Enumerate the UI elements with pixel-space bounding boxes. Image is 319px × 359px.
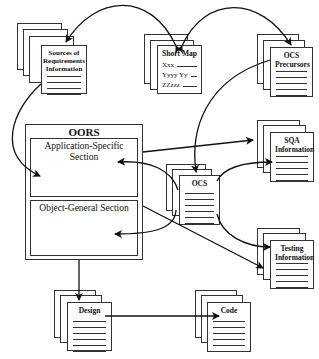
doc-title: Code [208,307,250,316]
map-row: Yyyy Yy [162,71,197,79]
text-lines [185,193,214,229]
map-row: Xxx [162,61,197,69]
oors-title: OORS [26,126,142,138]
text-lines [213,321,245,357]
doc-title: OCS [180,180,219,189]
doc-title: Testing Information [275,245,309,262]
doc-sqa-information: SQA Information [257,120,317,184]
sheet-front: Short Map Xxx Yyyy Yy ZZzzz [157,45,202,94]
map-row: ZZzzz [162,81,197,89]
doc-title: Design [68,307,111,316]
doc-sources-of-requirements: Sources of Requirements Information [17,23,89,95]
doc-short-map: Short Map Xxx Yyyy Yy ZZzzz [144,34,204,96]
sheet-front: OCS [179,175,220,225]
text-lines [73,321,106,357]
doc-testing-information: Testing Information [257,228,317,292]
diagram-canvas: Sources of Requirements Information Shor… [0,0,319,359]
sheet-front: Design [67,302,112,351]
sheet-front: Sources of Requirements Information [41,45,87,94]
doc-title: SQA Information [275,137,309,154]
section-object-general: Object-General Section [30,200,138,256]
sheet-front: SQA Information [270,132,314,182]
doc-title: Short Map [158,50,201,59]
doc-title: OCS Precursors [275,52,308,69]
oors-box: OORS Application-Specific Section Object… [25,124,143,260]
section-application-specific: Application-Specific Section [30,138,138,197]
arrow-appspecific-sqa [143,140,253,152]
doc-design: Design [54,290,116,354]
sheet-front: Code [207,302,251,352]
text-lines [47,76,81,100]
doc-title: Sources of Requirements Information [42,49,86,73]
sheet-front: OCS Precursors [270,47,313,97]
text-lines [276,263,308,293]
doc-ocs: OCS [166,164,224,227]
text-lines [276,71,307,101]
doc-ocs-precursors: OCS Precursors [257,34,317,100]
text-lines [276,156,308,186]
sheet-front: Testing Information [270,240,314,289]
doc-code: Code [195,290,255,356]
